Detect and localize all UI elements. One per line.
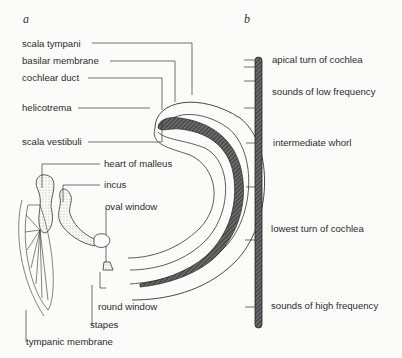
round-window-shape xyxy=(103,262,113,270)
panel-b-letter: b xyxy=(244,12,250,27)
label-apical-turn: apical turn of cochlea xyxy=(272,54,363,65)
label-scala-vestibuli: scala vestibuli xyxy=(22,136,82,147)
label-oval-window: oval window xyxy=(105,201,157,212)
cochlea-lower-wall xyxy=(128,128,214,258)
label-tympanic-membrane: tympanic membrane xyxy=(26,336,113,347)
label-incus: incus xyxy=(104,179,126,190)
basilar-membrane-bar xyxy=(255,57,262,328)
malleus xyxy=(36,175,54,233)
label-high-frequency: sounds of high frequency xyxy=(271,300,378,311)
label-cochlear-duct: cochlear duct xyxy=(22,72,79,83)
stapes xyxy=(94,234,110,248)
label-scala-tympani: scala tympani xyxy=(22,38,81,49)
ossicles xyxy=(36,175,113,270)
label-helicotrema: helicotrema xyxy=(22,102,72,113)
label-round-window: round window xyxy=(98,301,157,312)
panel-a-letter: a xyxy=(23,12,29,27)
scala-tympani-inner xyxy=(130,114,249,284)
label-heart-of-malleus: heart of malleus xyxy=(104,158,172,169)
label-lowest-turn: lowest turn of cochlea xyxy=(271,223,364,234)
incus xyxy=(59,189,96,246)
label-low-frequency: sounds of low frequency xyxy=(272,86,375,97)
label-stapes: stapes xyxy=(90,319,118,330)
label-basilar-membrane: basilar membrane xyxy=(22,55,99,66)
bar-ticks xyxy=(244,60,255,307)
label-intermediate-whorl: intermediate whorl xyxy=(273,137,351,148)
